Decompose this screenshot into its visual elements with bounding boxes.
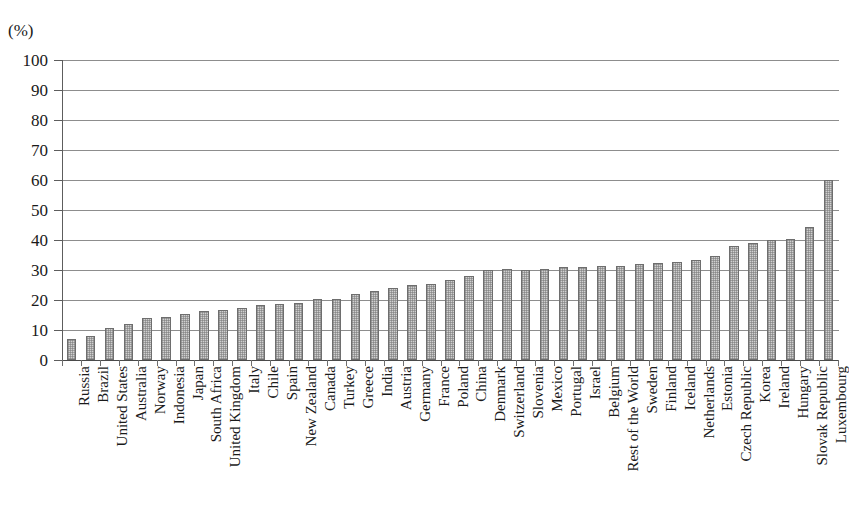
- bar[interactable]: [370, 291, 379, 360]
- bar[interactable]: [237, 308, 246, 361]
- bar[interactable]: [616, 266, 625, 361]
- x-tick-label: Italy: [247, 366, 262, 394]
- bar[interactable]: [332, 299, 341, 361]
- x-tick-label-text: Mexico: [550, 366, 565, 412]
- bar[interactable]: [180, 314, 189, 361]
- bar[interactable]: [710, 256, 719, 360]
- x-tick-label: Spain: [285, 366, 300, 400]
- x-tick-label-text: United Kingdom: [228, 366, 243, 467]
- x-tick-label-text: Norway: [153, 366, 168, 414]
- x-tick-label-text: Ireland: [777, 366, 792, 408]
- x-tick-label-text: France: [437, 366, 452, 407]
- x-tick-label-text: Austria: [399, 366, 414, 410]
- bar[interactable]: [672, 262, 681, 360]
- x-tick-label: Russia: [77, 366, 92, 406]
- bar[interactable]: [351, 294, 360, 360]
- bar[interactable]: [313, 299, 322, 360]
- x-tick-label: Norway: [153, 366, 168, 414]
- bar[interactable]: [256, 305, 265, 361]
- x-tick-label-text: India: [380, 366, 395, 397]
- y-tick-mark-70: [54, 150, 62, 151]
- x-tick-label: Denmark: [493, 366, 508, 422]
- x-tick-label-text: Slovenia: [531, 366, 546, 419]
- bar[interactable]: [540, 269, 549, 361]
- x-tick-label: India: [380, 366, 395, 397]
- x-tick-label: New Zealand: [304, 366, 319, 446]
- bar[interactable]: [218, 310, 227, 360]
- bar[interactable]: [464, 276, 473, 360]
- y-tick-label-70: 70: [0, 142, 48, 159]
- x-tick-label-text: Portugal: [569, 366, 584, 417]
- x-tick-label-text: Chile: [266, 366, 281, 399]
- y-tick-label-20: 20: [0, 292, 48, 309]
- x-tick-label: United Kingdom: [228, 366, 243, 467]
- x-tick-label: Greece: [361, 366, 376, 408]
- x-tick-label-text: Poland: [456, 366, 471, 408]
- x-tick-label: Indonesia: [172, 366, 187, 424]
- bar[interactable]: [67, 339, 76, 360]
- x-tick-label-text: Spain: [285, 366, 300, 400]
- x-tick-label: Finland: [664, 366, 679, 412]
- bar[interactable]: [805, 227, 814, 361]
- bar-series: [62, 60, 838, 360]
- bar[interactable]: [748, 243, 757, 360]
- x-tick-label: Japan: [191, 366, 206, 400]
- bar[interactable]: [275, 304, 284, 360]
- x-tick-label-text: Hungary: [796, 366, 811, 419]
- x-tick-label: Chile: [266, 366, 281, 399]
- x-tick-label: Slovenia: [531, 366, 546, 419]
- x-tick-label-text: Russia: [77, 366, 92, 406]
- bar[interactable]: [105, 328, 114, 360]
- bar[interactable]: [124, 324, 133, 360]
- x-tick-label: Ireland: [777, 366, 792, 408]
- bar[interactable]: [691, 260, 700, 361]
- bar[interactable]: [483, 270, 492, 360]
- x-tick-label-text: Germany: [418, 366, 433, 422]
- bar[interactable]: [142, 318, 151, 360]
- bar[interactable]: [767, 240, 776, 360]
- x-tick-label: Estonia: [720, 366, 735, 411]
- x-tick-label: United States: [115, 366, 130, 446]
- x-tick-label-text: Canada: [323, 366, 338, 411]
- y-tick-mark-10: [54, 330, 62, 331]
- y-tick-mark-50: [54, 210, 62, 211]
- x-tick-label-text: Belgium: [607, 366, 622, 418]
- x-tick-label: Portugal: [569, 366, 584, 417]
- bar[interactable]: [502, 269, 511, 360]
- x-tick-label-text: Japan: [191, 366, 206, 400]
- bar[interactable]: [559, 267, 568, 360]
- bar[interactable]: [161, 317, 170, 360]
- x-tick-label: Australia: [134, 366, 149, 421]
- bar[interactable]: [597, 266, 606, 360]
- y-tick-label-100: 100: [0, 52, 48, 69]
- x-tick-label: Switzerland: [512, 366, 527, 438]
- y-tick-mark-0: [54, 360, 62, 361]
- bar[interactable]: [824, 180, 833, 360]
- x-tick-label: Canada: [323, 366, 338, 411]
- x-tick-label-text: South Africa: [209, 366, 224, 442]
- x-tick-label: Mexico: [550, 366, 565, 412]
- x-tick-label-text: United States: [115, 366, 130, 446]
- bar[interactable]: [445, 280, 454, 360]
- y-tick-label-10: 10: [0, 322, 48, 339]
- y-tick-mark-20: [54, 300, 62, 301]
- x-tick-label-text: Switzerland: [512, 366, 527, 438]
- bar[interactable]: [388, 288, 397, 360]
- y-tick-mark-30: [54, 270, 62, 271]
- y-tick-label-30: 30: [0, 262, 48, 279]
- x-tick-label-text: Czech Republic: [739, 366, 754, 461]
- bar[interactable]: [521, 270, 530, 360]
- bar[interactable]: [578, 267, 587, 360]
- bar[interactable]: [407, 285, 416, 360]
- bar[interactable]: [294, 303, 303, 360]
- x-tick-label: Rest of the World: [626, 366, 641, 472]
- bar[interactable]: [635, 264, 644, 360]
- bar[interactable]: [86, 336, 95, 360]
- bar[interactable]: [653, 263, 662, 360]
- y-tick-label-60: 60: [0, 172, 48, 189]
- bar[interactable]: [786, 239, 795, 361]
- bar[interactable]: [729, 246, 738, 360]
- x-tick-label: Luxembourg: [834, 366, 849, 443]
- bar[interactable]: [426, 284, 435, 360]
- bar[interactable]: [199, 311, 208, 361]
